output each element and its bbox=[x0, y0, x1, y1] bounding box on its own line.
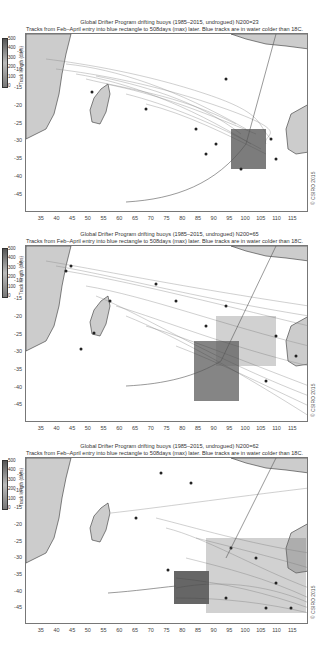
x-tick-label: 80 bbox=[174, 425, 190, 431]
x-tick-label: 115 bbox=[284, 215, 300, 221]
x-tick-label: 35 bbox=[33, 215, 49, 221]
x-tick-label: 95 bbox=[221, 627, 237, 633]
colorbar-tick: 300 bbox=[8, 477, 16, 482]
x-tick-label: 90 bbox=[206, 425, 222, 431]
x-tick-label: 40 bbox=[48, 215, 64, 221]
y-tick-label: -30 bbox=[4, 554, 22, 560]
y-tick-label: -10 bbox=[4, 487, 22, 493]
x-tick-label: 85 bbox=[190, 425, 206, 431]
x-tick-label: 95 bbox=[221, 425, 237, 431]
y-tick-label: -40 bbox=[4, 173, 22, 179]
colorbar-tick: 500 bbox=[8, 458, 16, 463]
y-tick-label: -35 bbox=[4, 155, 22, 161]
y-tick-label: -45 bbox=[4, 401, 22, 407]
y-tick-label: -15 bbox=[4, 295, 22, 301]
x-tick-label: 60 bbox=[111, 627, 127, 633]
y-tick-label: -10 bbox=[4, 66, 22, 72]
map-drawing bbox=[26, 458, 308, 624]
y-tick-label: -40 bbox=[4, 588, 22, 594]
map-panel-1: Global Drifter Program drifting buoys (1… bbox=[0, 0, 329, 230]
x-tick-label: 90 bbox=[206, 627, 222, 633]
x-tick-label: 70 bbox=[143, 627, 159, 633]
x-tick-label: 70 bbox=[143, 425, 159, 431]
x-tick-label: 50 bbox=[80, 425, 96, 431]
x-tick-label: 110 bbox=[269, 425, 285, 431]
x-tick-label: 80 bbox=[174, 627, 190, 633]
copyright-label: © CSIRO 2015 bbox=[310, 586, 316, 619]
y-tick-label: -5 bbox=[4, 48, 22, 54]
y-tick-label: -5 bbox=[4, 260, 22, 266]
x-tick-label: 110 bbox=[269, 215, 285, 221]
x-tick-label: 55 bbox=[96, 627, 112, 633]
x-tick-label: 50 bbox=[80, 627, 96, 633]
x-tick-label: 55 bbox=[96, 425, 112, 431]
y-tick-label: -25 bbox=[4, 538, 22, 544]
x-tick-label: 100 bbox=[237, 215, 253, 221]
x-tick-label: 45 bbox=[64, 215, 80, 221]
map-frame bbox=[25, 33, 308, 212]
x-tick-label: 65 bbox=[127, 215, 143, 221]
x-tick-label: 95 bbox=[221, 215, 237, 221]
y-tick-label: -35 bbox=[4, 571, 22, 577]
panel-subtitle: Tracks from Feb–April entry into blue re… bbox=[0, 238, 329, 245]
x-tick-label: 65 bbox=[127, 627, 143, 633]
panel-title: Global Drifter Program drifting buoys (1… bbox=[0, 19, 329, 26]
x-tick-label: 70 bbox=[143, 215, 159, 221]
panel-title: Global Drifter Program drifting buoys (1… bbox=[0, 231, 329, 238]
x-tick-label: 60 bbox=[111, 215, 127, 221]
y-tick-label: -15 bbox=[4, 84, 22, 90]
colorbar-tick: 100 bbox=[8, 284, 16, 289]
map-frame bbox=[25, 245, 308, 422]
colorbar-tick: 500 bbox=[8, 246, 16, 251]
y-tick-label: -20 bbox=[4, 521, 22, 527]
map-panel-3: Global Drifter Program drifting buoys (1… bbox=[0, 424, 329, 647]
colorbar-tick: 500 bbox=[8, 36, 16, 41]
y-tick-label: -30 bbox=[4, 137, 22, 143]
x-tick-label: 115 bbox=[284, 627, 300, 633]
x-tick-label: 100 bbox=[237, 425, 253, 431]
x-tick-label: 80 bbox=[174, 215, 190, 221]
x-tick-label: 75 bbox=[159, 215, 175, 221]
y-tick-label: -25 bbox=[4, 331, 22, 337]
colorbar-tick: 300 bbox=[8, 55, 16, 60]
colorbar-tick: 100 bbox=[8, 496, 16, 501]
y-tick-label: -15 bbox=[4, 504, 22, 510]
x-tick-label: 65 bbox=[127, 425, 143, 431]
colorbar-tick: 300 bbox=[8, 265, 16, 270]
x-tick-label: 55 bbox=[96, 215, 112, 221]
y-tick-label: -40 bbox=[4, 384, 22, 390]
panel-title: Global Drifter Program drifting buoys (1… bbox=[0, 443, 329, 450]
copyright-label: © CSIRO 2015 bbox=[310, 172, 316, 205]
y-tick-label: -30 bbox=[4, 348, 22, 354]
x-tick-label: 40 bbox=[48, 627, 64, 633]
x-tick-label: 35 bbox=[33, 425, 49, 431]
y-tick-label: -45 bbox=[4, 191, 22, 197]
x-tick-label: 90 bbox=[206, 215, 222, 221]
panel-subtitle: Tracks from Feb–April entry into blue re… bbox=[0, 450, 329, 457]
y-tick-label: -35 bbox=[4, 366, 22, 372]
x-tick-label: 110 bbox=[269, 627, 285, 633]
x-tick-label: 75 bbox=[159, 425, 175, 431]
y-tick-label: -25 bbox=[4, 120, 22, 126]
x-tick-label: 105 bbox=[253, 627, 269, 633]
x-tick-label: 60 bbox=[111, 425, 127, 431]
x-tick-label: 45 bbox=[64, 627, 80, 633]
x-tick-label: 100 bbox=[237, 627, 253, 633]
x-tick-label: 85 bbox=[190, 215, 206, 221]
y-tick-label: -20 bbox=[4, 313, 22, 319]
copyright-label: © CSIRO 2015 bbox=[310, 384, 316, 417]
y-tick-label: -10 bbox=[4, 277, 22, 283]
map-panel-2: Global Drifter Program drifting buoys (1… bbox=[0, 212, 329, 442]
y-tick-label: -20 bbox=[4, 102, 22, 108]
x-tick-label: 50 bbox=[80, 215, 96, 221]
colorbar-tick: 100 bbox=[8, 74, 16, 79]
map-frame bbox=[25, 457, 308, 624]
x-tick-label: 85 bbox=[190, 627, 206, 633]
x-tick-label: 35 bbox=[33, 627, 49, 633]
panel-subtitle: Tracks from Feb–April entry into blue re… bbox=[0, 26, 329, 33]
x-tick-label: 45 bbox=[64, 425, 80, 431]
map-drawing bbox=[26, 246, 308, 422]
x-tick-label: 75 bbox=[159, 627, 175, 633]
x-tick-label: 105 bbox=[253, 425, 269, 431]
x-tick-label: 115 bbox=[284, 425, 300, 431]
